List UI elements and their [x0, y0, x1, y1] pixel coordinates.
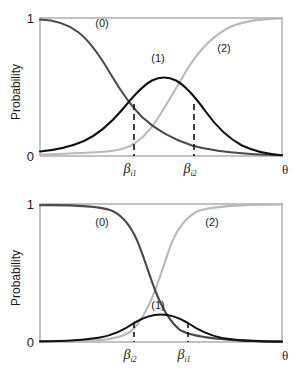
curve-label-2-top: (2): [217, 42, 230, 54]
y-tick-bottom-0: 0: [27, 335, 34, 350]
curve-2-bottom: [40, 204, 282, 341]
beta-sub-1-top: i1: [130, 169, 136, 178]
curve-label-0-bottom: (0): [95, 216, 108, 228]
curve-label-1-top: (1): [151, 52, 164, 64]
panel-top: Probability 1 0 (0) (1) (2) βi1 βi2 θ: [0, 0, 301, 185]
curve-2-top: [40, 18, 282, 154]
y-tick-top-0: 0: [27, 149, 34, 164]
curve-label-2-bottom: (2): [205, 216, 218, 228]
y-axis-label-bottom: Probability: [9, 250, 23, 306]
y-axis-label-top: Probability: [9, 64, 23, 120]
beta-glyph-2-top: β: [182, 161, 190, 176]
y-tick-top-1: 1: [27, 11, 34, 26]
x-axis-label-bottom: θ: [282, 348, 288, 363]
beta-label-1-top: βi1: [122, 161, 136, 178]
curve-label-0-top: (0): [95, 17, 108, 29]
beta-glyph-1-bottom: β: [122, 347, 130, 362]
beta-sub-1-bottom: i2: [130, 355, 136, 364]
panel-bottom: Probability 1 0 (0) (1) (2) βi2 βi1 θ: [0, 186, 301, 371]
plot-top: Probability 1 0 (0) (1) (2) βi1 βi2 θ: [0, 0, 301, 185]
y-tick-bottom-1: 1: [27, 197, 34, 212]
beta-label-2-top: βi2: [182, 161, 196, 178]
curve-1-bottom: [40, 315, 282, 342]
beta-glyph-1-top: β: [122, 161, 130, 176]
x-axis-label-top: θ: [282, 162, 288, 177]
curve-label-1-bottom: (1): [151, 299, 164, 311]
beta-sub-2-top: i2: [190, 169, 196, 178]
beta-label-1-bottom: βi2: [122, 347, 136, 364]
plot-bottom: Probability 1 0 (0) (1) (2) βi2 βi1 θ: [0, 186, 301, 371]
curve-1-top: [40, 78, 282, 156]
curve-0-top: [40, 20, 282, 156]
beta-label-2-bottom: βi1: [176, 347, 190, 364]
beta-glyph-2-bottom: β: [176, 347, 184, 362]
beta-sub-2-bottom: i1: [184, 355, 190, 364]
plot-frame-top: [40, 18, 282, 156]
